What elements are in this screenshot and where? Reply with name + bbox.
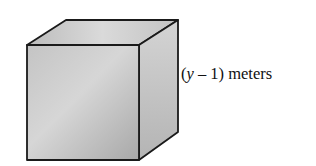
- edge-length-label: (y – 1) meters: [181, 66, 272, 83]
- cube-side-face: [139, 20, 178, 160]
- cube-front-face: [27, 45, 139, 160]
- label-operator: – 1): [194, 64, 224, 83]
- label-unit: meters: [224, 64, 272, 83]
- label-variable: y: [187, 64, 194, 83]
- cube-figure: [0, 0, 316, 166]
